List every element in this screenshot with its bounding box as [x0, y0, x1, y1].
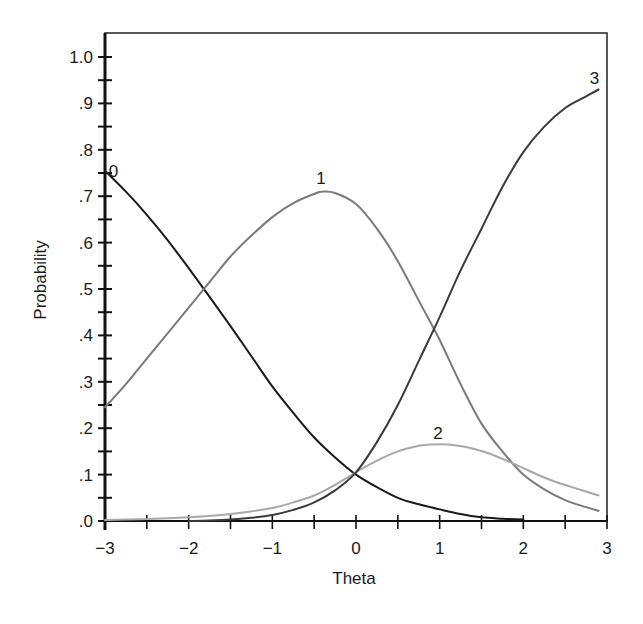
item-response-chart: .0.1.2.3.4.5.6.7.8.91.0 −3−2−10123 0123 … [0, 0, 643, 624]
curve-category-1 [105, 191, 599, 510]
y-tick-label: .9 [79, 94, 93, 113]
x-tick-label: 0 [351, 539, 360, 558]
curve-label-2: 2 [433, 424, 442, 443]
curve-label-3: 3 [590, 69, 599, 88]
curve-label-1: 1 [316, 169, 325, 188]
y-tick-label: .7 [79, 187, 93, 206]
y-tick-label: .2 [79, 419, 93, 438]
curve-category-2 [105, 444, 599, 520]
x-tick-label: −2 [179, 539, 198, 558]
plot-border [105, 33, 607, 521]
y-axis-title: Probability [31, 240, 50, 320]
x-tick-label: −1 [263, 539, 282, 558]
response-curves [105, 90, 599, 522]
y-tick-label: 1.0 [69, 48, 93, 67]
x-tick-label: 1 [435, 539, 444, 558]
x-tick-label: 3 [602, 539, 611, 558]
curve-category-3 [189, 90, 599, 522]
y-tick-label: .0 [79, 512, 93, 531]
plot-frame [105, 33, 607, 530]
curve-label-0: 0 [109, 162, 118, 181]
y-tick-label: .8 [79, 141, 93, 160]
y-tick-label: .4 [79, 326, 93, 345]
curve-labels: 0123 [109, 69, 600, 443]
curve-category-0 [105, 171, 523, 520]
x-tick-label: −3 [95, 539, 114, 558]
y-tick-label: .6 [79, 234, 93, 253]
y-tick-label: .5 [79, 280, 93, 299]
x-tick-label: 2 [519, 539, 528, 558]
x-axis-title: Theta [332, 569, 376, 588]
y-tick-label: .1 [79, 466, 93, 485]
y-tick-label: .3 [79, 373, 93, 392]
